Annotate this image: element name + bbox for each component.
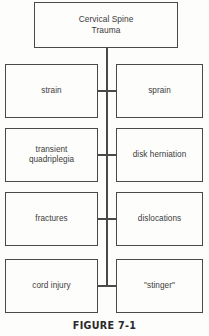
node-row4-right-text: "stinger" <box>144 281 175 292</box>
node-row4-left: cord injury <box>5 259 98 313</box>
node-row2-left-line2: quadriplegia <box>29 155 74 164</box>
node-row3-left-text: fractures <box>35 214 67 225</box>
node-row2-right-text: disk herniation <box>133 150 187 161</box>
node-row2-right: disk herniation <box>116 128 203 182</box>
node-row1-left: strain <box>5 64 98 118</box>
node-row4-right: "stinger" <box>116 259 203 313</box>
node-row1-right: sprain <box>116 64 203 118</box>
connector-trunk-root-to-row1 <box>106 48 108 91</box>
node-root-text: Cervical SpineTrauma <box>79 14 134 36</box>
figure-caption: FIGURE 7-1 <box>0 320 209 331</box>
node-row1-left-text: strain <box>41 86 61 97</box>
node-root: Cervical SpineTrauma <box>34 2 178 48</box>
node-row3-right-text: dislocations <box>138 214 181 225</box>
node-row3-right: dislocations <box>116 192 203 246</box>
node-row4-left-text: cord injury <box>32 281 70 292</box>
figure-diagram: Cervical SpineTrauma strain sprain trans… <box>0 0 209 336</box>
node-row1-right-text: sprain <box>148 86 171 97</box>
node-root-line2: Trauma <box>92 25 121 35</box>
node-row2-left-line1: transient <box>36 145 68 154</box>
connector-trunk-row3-to-row4 <box>106 219 108 286</box>
node-root-line1: Cervical Spine <box>79 14 134 24</box>
node-row2-left: transientquadriplegia <box>5 128 98 182</box>
connector-trunk-row1-to-row2 <box>106 91 108 155</box>
node-row3-left: fractures <box>5 192 98 246</box>
node-row2-left-text: transientquadriplegia <box>29 145 74 166</box>
connector-trunk-row2-to-row3 <box>106 155 108 219</box>
